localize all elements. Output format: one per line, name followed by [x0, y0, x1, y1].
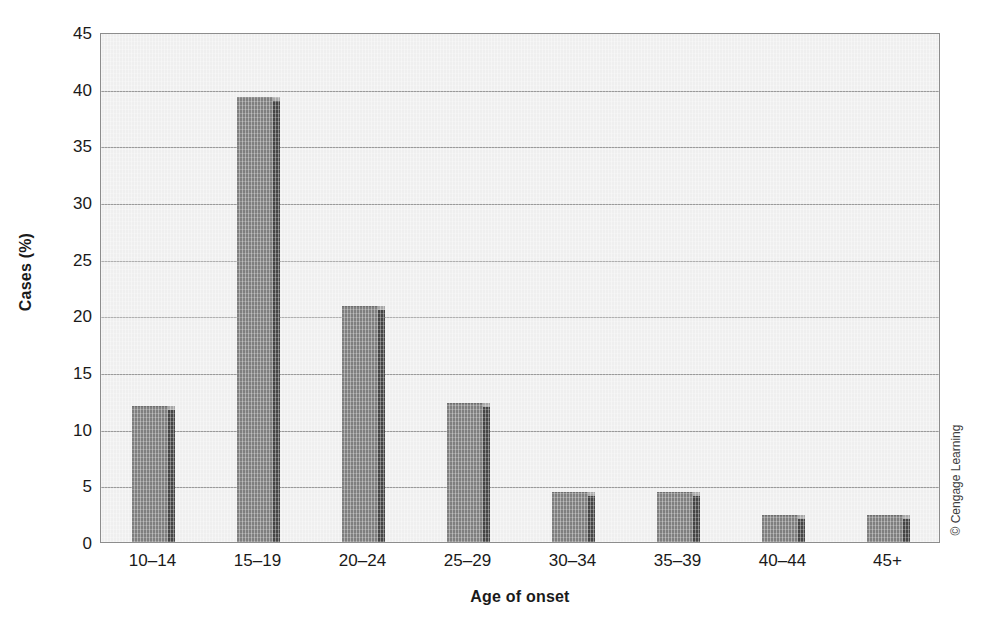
plot-area — [100, 33, 940, 543]
y-axis-tick-label: 40 — [44, 81, 92, 98]
x-axis-tick-labels: 10–1415–1920–2425–2930–3435–3940–4445+ — [100, 552, 940, 578]
bar-face — [132, 406, 168, 542]
bar-side-shadow — [693, 496, 700, 542]
bar-chart-figure: Cases (%) 051015202530354045 10–1415–192… — [0, 0, 984, 628]
bar-face — [657, 492, 693, 542]
bar — [867, 515, 910, 542]
bar-face — [447, 403, 483, 542]
bar — [447, 403, 490, 542]
bar-side-shadow — [378, 310, 385, 542]
y-axis-tick-label: 0 — [44, 535, 92, 552]
bar — [342, 306, 385, 542]
bar-face — [237, 97, 273, 542]
bar-face — [552, 492, 588, 542]
bar-side-shadow — [483, 407, 490, 542]
bar-face — [867, 515, 903, 542]
y-axis-tick-label: 45 — [44, 25, 92, 42]
x-axis-tick-label: 30–34 — [549, 552, 596, 569]
x-axis-tick-label: 45+ — [873, 552, 902, 569]
y-axis-tick-label: 20 — [44, 308, 92, 325]
y-axis-tick-label: 35 — [44, 138, 92, 155]
x-axis-tick-label: 20–24 — [339, 552, 386, 569]
copyright-credit: © Cengage Learning — [944, 400, 968, 560]
y-axis-tick-label: 25 — [44, 251, 92, 268]
y-axis-tick-label: 15 — [44, 365, 92, 382]
bar — [762, 515, 805, 542]
bar-series — [101, 34, 939, 542]
x-axis-title: Age of onset — [100, 588, 940, 606]
bar-side-shadow — [798, 519, 805, 542]
y-axis-title: Cases (%) — [8, 0, 44, 543]
y-axis-tick-label: 5 — [44, 478, 92, 495]
x-axis-tick-label: 15–19 — [234, 552, 281, 569]
x-axis-tick-label: 35–39 — [654, 552, 701, 569]
bar — [132, 406, 175, 542]
bar-side-shadow — [168, 410, 175, 542]
x-axis-tick-label: 10–14 — [129, 552, 176, 569]
y-axis-tick-label: 30 — [44, 195, 92, 212]
y-axis-tick-labels: 051015202530354045 — [44, 0, 92, 628]
bar-side-shadow — [588, 496, 595, 542]
bar-face — [342, 306, 378, 542]
y-axis-title-text: Cases (%) — [17, 232, 35, 310]
bar-side-shadow — [903, 519, 910, 542]
bar-face — [762, 515, 798, 542]
bar-side-shadow — [273, 101, 280, 542]
bar — [237, 97, 280, 542]
x-axis-tick-label: 40–44 — [759, 552, 806, 569]
copyright-credit-text: © Cengage Learning — [949, 425, 963, 536]
bar — [657, 492, 700, 542]
bar — [552, 492, 595, 542]
y-axis-tick-label: 10 — [44, 421, 92, 438]
x-axis-tick-label: 25–29 — [444, 552, 491, 569]
